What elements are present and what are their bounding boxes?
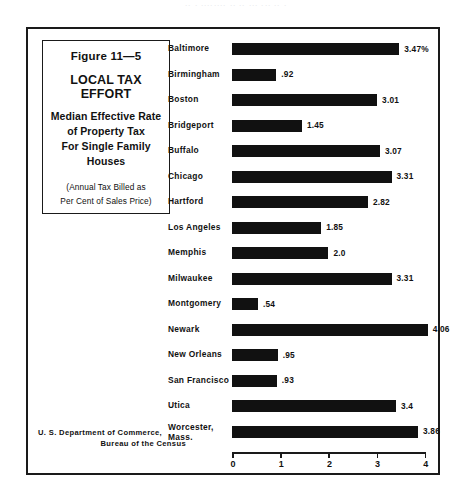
x-axis-tick (328, 452, 330, 458)
bar-row: San Francisco.93 (28, 375, 438, 401)
bar (232, 43, 399, 55)
bar-row: Newark4.06 (28, 324, 438, 350)
bar-category-label: Bridgeport (168, 120, 232, 130)
bar (232, 349, 278, 361)
bar-category-label: Utica (168, 400, 232, 410)
bar-row: Buffalo3.07 (28, 145, 438, 171)
bar-row: Milwaukee3.31 (28, 273, 438, 299)
bar-category-label: Buffalo (168, 145, 232, 155)
bar-category-label: Boston (168, 94, 232, 104)
bar-row: Worcester,Mass.3.86 (28, 426, 438, 452)
bar (232, 375, 277, 387)
x-axis-tick (280, 452, 282, 458)
x-axis-tick-label: 4 (419, 459, 433, 469)
x-axis-tick (425, 452, 427, 458)
bar-row: Boston3.01 (28, 94, 438, 120)
bar-value-label: 3.31 (397, 273, 414, 283)
bar-value-label: 3.47% (404, 44, 429, 54)
bar (232, 247, 328, 259)
bar-row: Montgomery.54 (28, 298, 438, 324)
bar (232, 324, 428, 336)
bar-chart-plot-area: Baltimore3.47%Birmingham.92Boston3.01Bri… (28, 29, 438, 473)
bar-category-label: San Francisco (168, 375, 232, 385)
bar-row: Bridgeport1.45 (28, 120, 438, 146)
bar (232, 298, 258, 310)
x-axis-tick-label: 0 (226, 459, 240, 469)
bar (232, 222, 321, 234)
bar-category-label: Hartford (168, 196, 232, 206)
bar (232, 94, 377, 106)
x-axis-tick-label: 3 (371, 459, 385, 469)
bar (232, 273, 392, 285)
bar-category-label: Los Angeles (168, 222, 232, 232)
bar-row: Memphis2.0 (28, 247, 438, 273)
bar-row: Baltimore3.47% (28, 43, 438, 69)
bar-row: Los Angeles1.85 (28, 222, 438, 248)
bar-value-label: 3.86 (423, 426, 440, 436)
bar-category-label: Birmingham (168, 69, 232, 79)
bar-value-label: 2.82 (373, 197, 390, 207)
bar-value-label: 3.01 (382, 95, 399, 105)
bar-value-label: 4.06 (433, 324, 450, 334)
bar-category-label: Newark (168, 324, 232, 334)
bar-value-label: .92 (281, 69, 293, 79)
x-axis-tick (232, 452, 234, 458)
bar (232, 120, 302, 132)
x-axis-tick-label: 2 (322, 459, 336, 469)
bar-row: Chicago3.31 (28, 171, 438, 197)
bar-category-label: Chicago (168, 171, 232, 181)
bar-value-label: .95 (283, 350, 295, 360)
bar-category-label: Montgomery (168, 298, 232, 308)
bar-value-label: 2.0 (333, 248, 345, 258)
bar (232, 145, 380, 157)
bar-row: Birmingham.92 (28, 69, 438, 95)
bar-row: Hartford2.82 (28, 196, 438, 222)
bar (232, 426, 418, 438)
bar (232, 196, 368, 208)
bar-category-label: New Orleans (168, 349, 232, 359)
bar-value-label: .93 (282, 375, 294, 385)
bar-value-label: 1.45 (307, 120, 324, 130)
bar-value-label: 3.07 (385, 146, 402, 156)
figure-frame: Figure 11—5 LOCAL TAX EFFORT Median Effe… (26, 27, 440, 475)
bar-row: Utica3.4 (28, 400, 438, 426)
page-bleedthrough-artifact: ․․ ․ ․․․․․․․․ ․․ ․․ ․․․ ․․․ ․․ ․ (185, 0, 460, 9)
bar-category-label: Baltimore (168, 43, 232, 53)
bar-category-label: Memphis (168, 247, 232, 257)
bar-value-label: 3.31 (397, 171, 414, 181)
bar (232, 69, 276, 81)
bar (232, 400, 396, 412)
bar-row: New Orleans.95 (28, 349, 438, 375)
bar-value-label: .54 (263, 299, 275, 309)
bar-value-label: 1.85 (326, 222, 343, 232)
bar-category-label: Worcester,Mass. (168, 422, 232, 442)
x-axis-tick-label: 1 (274, 459, 288, 469)
bar-value-label: 3.4 (401, 401, 413, 411)
bar-category-label: Milwaukee (168, 273, 232, 283)
x-axis-tick (377, 452, 379, 458)
bar (232, 171, 392, 183)
